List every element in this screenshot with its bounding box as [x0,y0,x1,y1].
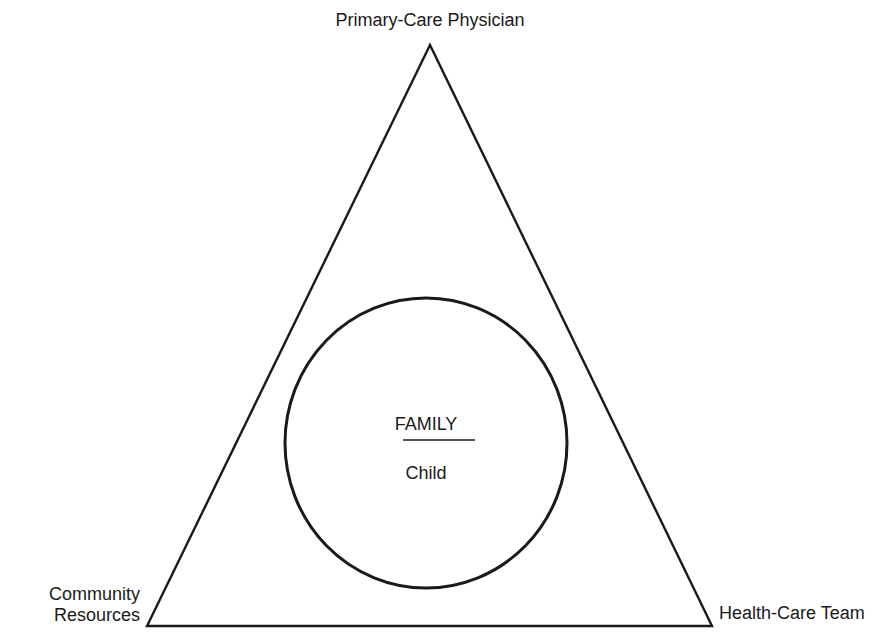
vertex-label-health-care-team: Health-Care Team [719,603,865,624]
diagram-canvas [0,0,894,643]
family-child-label: Child [326,463,526,484]
care-triangle [147,45,712,626]
vertex-label-community-resources: Community Resources [10,584,140,626]
family-circle [285,298,567,588]
vertex-label-community-line1: Community [10,584,140,605]
vertex-label-primary-care-physician: Primary-Care Physician [0,10,860,31]
vertex-label-community-line2: Resources [10,605,140,626]
family-title: FAMILY [326,414,526,435]
